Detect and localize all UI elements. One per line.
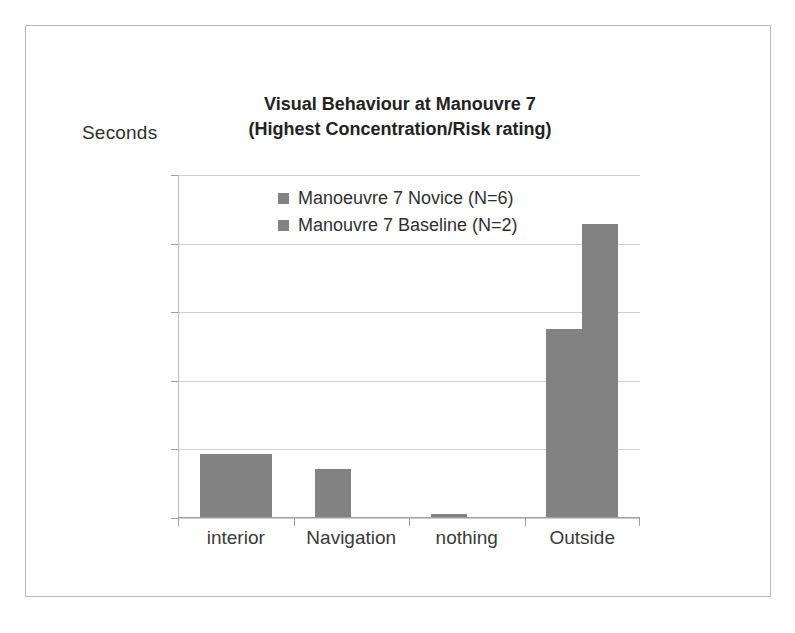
legend-label: Manoeuvre 7 Novice (N=6) bbox=[298, 188, 514, 209]
y-tick-mark bbox=[171, 518, 178, 519]
gridline bbox=[178, 312, 640, 313]
legend-swatch-icon bbox=[278, 220, 289, 231]
x-category-label: nothing bbox=[409, 527, 525, 549]
x-tick-mark bbox=[525, 518, 526, 526]
x-category-label: interior bbox=[178, 527, 294, 549]
bar bbox=[200, 454, 236, 518]
x-tick-mark bbox=[409, 518, 410, 526]
y-axis-line bbox=[178, 175, 179, 518]
bar bbox=[582, 224, 618, 518]
x-tick-mark bbox=[639, 518, 640, 526]
x-tick-mark bbox=[178, 518, 179, 526]
x-category-label: Navigation bbox=[294, 527, 410, 549]
y-tick-mark bbox=[171, 175, 178, 176]
y-axis-title: Seconds bbox=[82, 122, 157, 144]
x-category-label: Outside bbox=[525, 527, 641, 549]
chart-title-line-2: (Highest Concentration/Risk rating) bbox=[150, 117, 650, 142]
bar bbox=[546, 329, 582, 518]
chart-figure: Seconds Visual Behaviour at Manouvre 7 (… bbox=[0, 0, 795, 633]
y-tick-mark bbox=[171, 312, 178, 313]
bar bbox=[236, 454, 272, 518]
legend-label: Manouvre 7 Baseline (N=2) bbox=[298, 215, 518, 236]
bar bbox=[315, 469, 351, 518]
x-tick-mark bbox=[294, 518, 295, 526]
chart-title: Visual Behaviour at Manouvre 7 (Highest … bbox=[150, 92, 650, 142]
legend-item: Manouvre 7 Baseline (N=2) bbox=[278, 212, 518, 239]
gridline bbox=[178, 175, 640, 176]
chart-title-line-1: Visual Behaviour at Manouvre 7 bbox=[150, 92, 650, 117]
gridline bbox=[178, 244, 640, 245]
chart-legend: Manoeuvre 7 Novice (N=6)Manouvre 7 Basel… bbox=[278, 185, 518, 239]
x-axis-line bbox=[178, 517, 640, 518]
legend-item: Manoeuvre 7 Novice (N=6) bbox=[278, 185, 518, 212]
legend-swatch-icon bbox=[278, 193, 289, 204]
y-tick-mark bbox=[171, 244, 178, 245]
plot-area: 0510152025 interiorNavigationnothingOuts… bbox=[178, 175, 640, 518]
y-tick-mark bbox=[171, 381, 178, 382]
y-tick-mark bbox=[171, 449, 178, 450]
